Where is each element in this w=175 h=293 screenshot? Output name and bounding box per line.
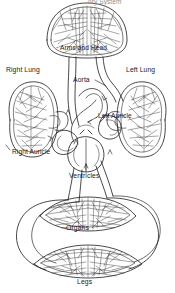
label-legs: Legs	[77, 278, 92, 285]
diagram-title: ory System	[88, 0, 122, 5]
label-arms-and-head: Arms and Head	[60, 44, 107, 51]
label-ventricles: Ventricles	[69, 172, 99, 179]
heart	[52, 89, 121, 172]
descending-vessels	[68, 161, 113, 202]
label-right-lung: Right Lung	[6, 66, 40, 73]
capillary-bed-legs	[34, 245, 142, 278]
label-right-auricle: Right Auricle	[12, 148, 50, 155]
label-aorta: Aorta	[73, 76, 90, 83]
circulatory-system-diagram: ory System Arms and Head Right Lung Left…	[0, 0, 175, 293]
label-left-auricle: Left Auricle	[98, 112, 132, 119]
label-left-lung: Left Lung	[126, 66, 155, 73]
left-lung-body	[107, 82, 166, 157]
right-lung-body	[9, 82, 68, 157]
label-organs: Organs	[66, 224, 89, 231]
